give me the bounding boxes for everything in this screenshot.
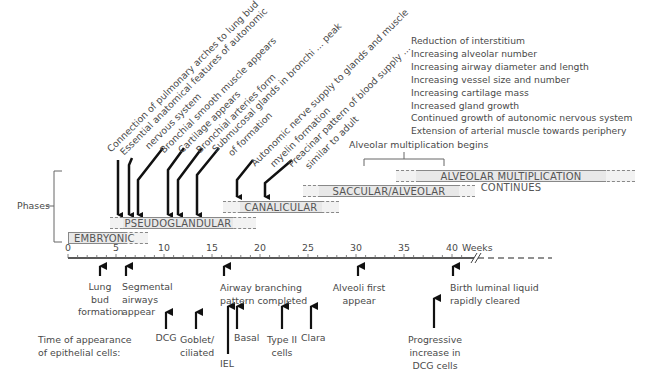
- event-birth: Birth luminal liquidrapidly cleared: [450, 281, 539, 307]
- postnatal-changes-list: Reduction of interstitium Increasing alv…: [411, 35, 632, 138]
- cell-goblet-ciliated: Goblet/ciliated: [180, 333, 214, 359]
- list-item: Extension of arterial muscle towards per…: [411, 125, 632, 138]
- cell-basal: Basal: [234, 333, 259, 342]
- list-item: Reduction of interstitium: [411, 35, 632, 48]
- event-segmental-airways: Segmentalairwaysappear: [122, 281, 173, 319]
- cell-type-ii: Type IIcells: [266, 333, 298, 359]
- cell-dcg: DCG: [150, 333, 182, 342]
- alveolar-bracket: [364, 152, 444, 166]
- cell-clara: Clara: [301, 333, 326, 342]
- phases-label: Phases: [17, 201, 50, 210]
- time-axis: [68, 253, 552, 263]
- bottom-event-arrows: [100, 266, 453, 276]
- event-alveoli-first: Alveoli firstappear: [330, 281, 388, 307]
- axis-unit-label: Weeks: [462, 243, 493, 252]
- list-item: Increasing cartilage mass: [411, 87, 632, 100]
- list-item: Increasing alveolar number: [411, 48, 632, 61]
- list-item: Increasing vessel size and number: [411, 74, 632, 87]
- event-airway-branching: Airway branchingpattern completed: [220, 281, 307, 307]
- cell-iel: IEL: [220, 359, 234, 368]
- list-item: Increasing airway diameter and length: [411, 61, 632, 74]
- cell-progressive-dcg: Progressiveincrease inDCG cells: [408, 333, 462, 372]
- list-item: Increased gland growth: [411, 100, 632, 113]
- event-lung-bud: Lungbudformation: [78, 281, 122, 319]
- alveolar-bracket-label: Alveolar multiplication begins: [349, 140, 488, 149]
- epithelial-label: Time of appearanceof epithelial cells:: [38, 333, 120, 359]
- list-item: Continued growth of autonomic nervous sy…: [411, 112, 632, 125]
